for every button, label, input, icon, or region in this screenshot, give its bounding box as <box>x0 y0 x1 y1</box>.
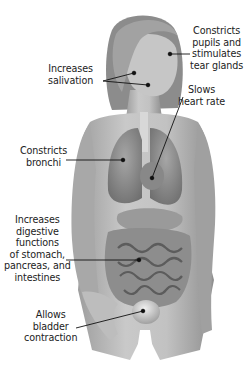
label-digestive: Increases digestive functions of stomach… <box>4 214 71 283</box>
anatomy-figure: Constricts pupils and stimulates tear gl… <box>0 0 246 371</box>
label-salivation: Increases salivation <box>48 63 93 86</box>
label-bronchi: Constricts bronchi <box>20 145 67 168</box>
intestines <box>105 228 192 308</box>
label-heart: Slows heart rate <box>178 84 225 107</box>
label-eyes: Constricts pupils and stimulates tear gl… <box>190 25 243 71</box>
bladder <box>132 300 160 324</box>
label-bladder: Allows bladder contraction <box>24 309 77 344</box>
